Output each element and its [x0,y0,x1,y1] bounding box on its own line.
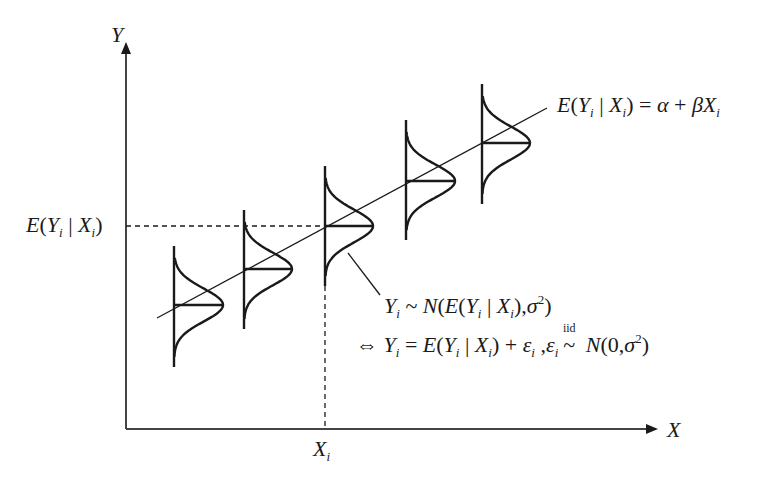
normal-density-curve [174,258,223,357]
normal-density-curve [482,96,530,194]
regression-equation: E(Yi | Xi) = α + βXi [557,94,720,116]
x-axis-label: X [667,419,680,441]
bell-curve [406,120,455,240]
diagram-canvas [0,0,784,485]
regression-line [157,108,547,318]
distribution-equation: Yi ~ N(E(Yi | Xi),σ2) [384,295,551,317]
bell-curve [174,246,223,367]
annotation-pointer [348,253,380,295]
bell-curve [482,84,530,204]
x-tick-xi: Xi [313,438,330,460]
iid-tilde: iid~ [558,334,580,356]
normal-density-curve [244,222,292,319]
error-term-equation: ⇔ Yi = E(Yi | Xi) + εi ,εiiid~ N(0,σ2) [356,334,649,356]
y-axis-label: Y [111,24,123,46]
bell-curve [325,166,373,286]
y-tick-conditional-mean: E(Yi | Xi) [26,214,102,236]
bell-curve [244,210,292,329]
